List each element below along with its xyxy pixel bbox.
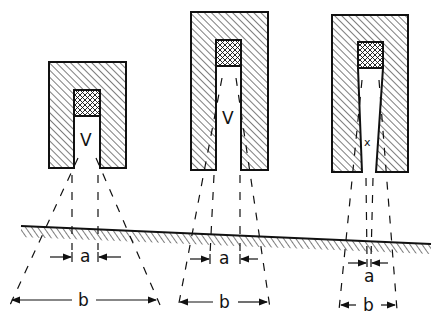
nozzle-2-plug bbox=[216, 40, 241, 66]
nozzle-3-spray-label: x bbox=[364, 136, 371, 149]
nozzle-1-plug bbox=[74, 90, 100, 116]
nozzle-3-a-label: a bbox=[364, 266, 374, 286]
nozzle-spray-diagram: V V x bbox=[0, 0, 441, 317]
nozzle-3-plug bbox=[358, 42, 383, 68]
nozzle-1-b-label: b bbox=[78, 290, 89, 310]
nozzle-2-spray-label: V bbox=[222, 108, 234, 128]
nozzle-2-body bbox=[191, 12, 268, 170]
nozzle-1-a-label: a bbox=[80, 246, 90, 266]
nozzle-1-spray-label: V bbox=[80, 130, 92, 150]
nozzle-2-b-label: b bbox=[219, 292, 230, 312]
nozzle-1: V bbox=[10, 62, 160, 305]
nozzle-2-a-label: a bbox=[219, 248, 229, 268]
nozzle-3-b-label: b bbox=[363, 295, 374, 315]
